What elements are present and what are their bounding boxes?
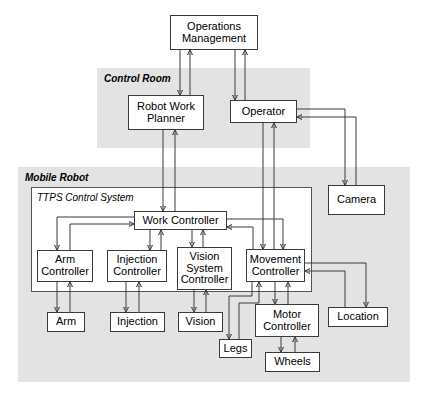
node-movement-controller[interactable]: Movement Controller bbox=[246, 249, 305, 282]
region-ttps-control-system-label: TTPS Control System bbox=[37, 192, 134, 203]
node-motor-controller[interactable]: Motor Controller bbox=[255, 304, 319, 337]
node-injection[interactable]: Injection bbox=[110, 312, 165, 332]
diagram-canvas: Control Room Mobile Robot TTPS Control S… bbox=[0, 0, 428, 396]
node-arm-controller[interactable]: Arm Controller bbox=[37, 250, 93, 282]
node-vision[interactable]: Vision bbox=[178, 312, 223, 332]
node-operations-management[interactable]: Operations Management bbox=[170, 15, 258, 50]
region-mobile-robot-label: Mobile Robot bbox=[25, 172, 88, 183]
node-arm[interactable]: Arm bbox=[47, 312, 85, 332]
node-legs[interactable]: Legs bbox=[219, 339, 252, 358]
node-injection-controller[interactable]: Injection Controller bbox=[107, 250, 167, 282]
node-camera[interactable]: Camera bbox=[328, 185, 385, 215]
node-work-controller[interactable]: Work Controller bbox=[134, 211, 227, 230]
region-control-room-label: Control Room bbox=[104, 73, 171, 84]
node-robot-work-planner[interactable]: Robot Work Planner bbox=[128, 95, 204, 130]
node-wheels[interactable]: Wheels bbox=[265, 352, 320, 372]
node-location[interactable]: Location bbox=[328, 307, 388, 327]
node-vision-system-controller[interactable]: Vision System Controller bbox=[177, 247, 232, 290]
node-operator[interactable]: Operator bbox=[230, 100, 297, 123]
